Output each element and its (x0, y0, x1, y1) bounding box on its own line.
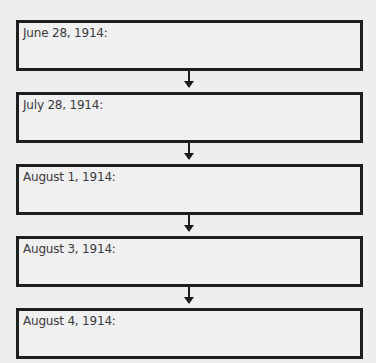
down-arrow-icon (183, 143, 195, 161)
down-arrow-icon (183, 287, 195, 305)
timeline-box-july-28[interactable]: July 28, 1914: (16, 92, 363, 143)
date-label: June 28, 1914: (23, 26, 108, 40)
timeline-box-august-4[interactable]: August 4, 1914: (16, 308, 363, 359)
date-label: August 4, 1914: (23, 314, 116, 328)
date-label: August 3, 1914: (23, 242, 116, 256)
date-label: July 28, 1914: (23, 98, 103, 112)
timeline-box-august-3[interactable]: August 3, 1914: (16, 236, 363, 287)
timeline-box-june-28[interactable]: June 28, 1914: (16, 20, 363, 71)
down-arrow-icon (183, 71, 195, 89)
timeline-box-august-1[interactable]: August 1, 1914: (16, 164, 363, 215)
down-arrow-icon (183, 215, 195, 233)
date-label: August 1, 1914: (23, 170, 116, 184)
